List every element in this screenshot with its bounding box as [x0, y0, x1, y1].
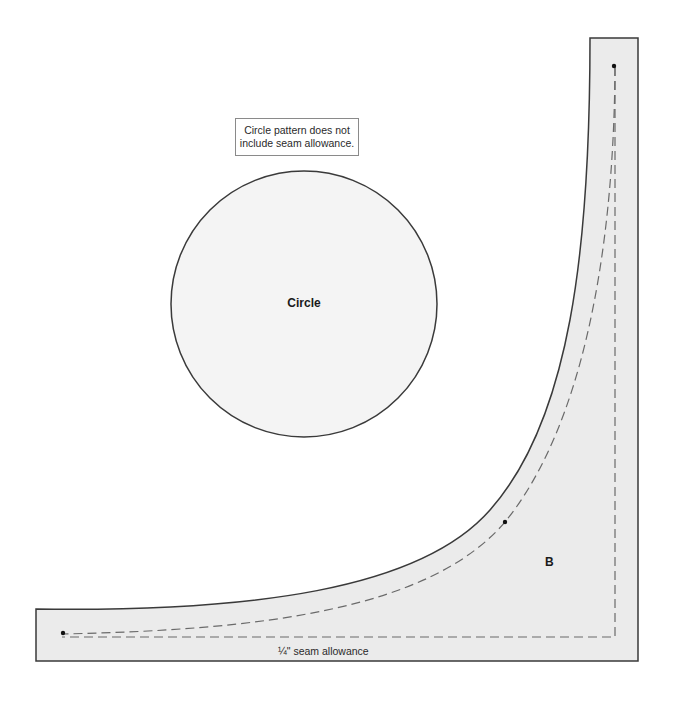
registration-dot-left — [61, 631, 65, 635]
note-line-1: Circle pattern does not — [244, 124, 350, 137]
seam-allowance-note: Circle pattern does not include seam all… — [235, 118, 359, 156]
piece-b-label: B — [545, 555, 554, 569]
pattern-diagram — [0, 0, 673, 707]
registration-dot-top — [612, 64, 616, 68]
note-line-2: include seam allowance. — [240, 137, 354, 150]
registration-dot-middle — [503, 520, 507, 524]
seam-allowance-label: ¼" seam allowance — [278, 645, 369, 657]
circle-label: Circle — [264, 296, 344, 310]
